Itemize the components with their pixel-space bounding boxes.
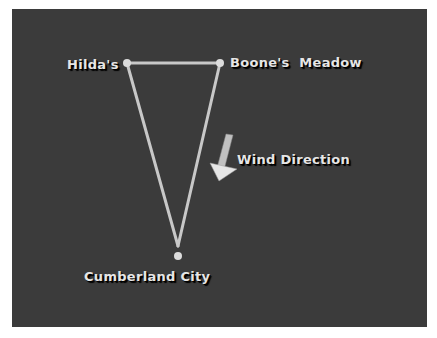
label-wind-direction: Wind Direction bbox=[237, 152, 350, 167]
edge-hildas-cumberland bbox=[127, 63, 178, 246]
wind-arrow-icon bbox=[210, 134, 237, 181]
node-hildas bbox=[123, 59, 131, 67]
triangle-diagram bbox=[0, 0, 437, 338]
node-boones-meadow bbox=[216, 59, 224, 67]
label-hildas: Hilda's bbox=[67, 57, 119, 72]
edge-boones-cumberland bbox=[178, 63, 220, 246]
label-boones-meadow: Boone's Meadow bbox=[230, 55, 362, 70]
node-cumberland-city bbox=[174, 252, 182, 260]
label-cumberland-city: Cumberland City bbox=[84, 269, 210, 284]
